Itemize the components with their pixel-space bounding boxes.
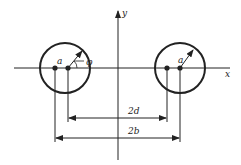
left-conductor — [40, 43, 90, 142]
dimension-2d-label: 2d — [127, 106, 140, 116]
right-radius-label: a — [178, 55, 183, 65]
y-axis-label: y — [121, 8, 128, 18]
left-radius-label: a — [57, 56, 62, 66]
diagram-svg: x y a φ a — [0, 0, 241, 165]
left-radius-arrow — [68, 51, 82, 68]
x-axis-label: x — [225, 69, 230, 79]
angle-arc — [74, 61, 77, 68]
dimension-2b-label: 2b — [127, 126, 140, 136]
diagram-canvas: x y a φ a — [0, 0, 241, 165]
angle-label: φ — [86, 57, 93, 67]
